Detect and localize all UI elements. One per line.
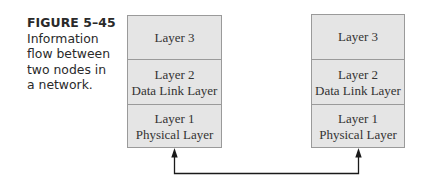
arrow-up-icon <box>171 148 177 158</box>
arrow-up-icon <box>355 148 361 158</box>
link-line <box>175 156 359 174</box>
physical-link-connector <box>0 0 430 183</box>
